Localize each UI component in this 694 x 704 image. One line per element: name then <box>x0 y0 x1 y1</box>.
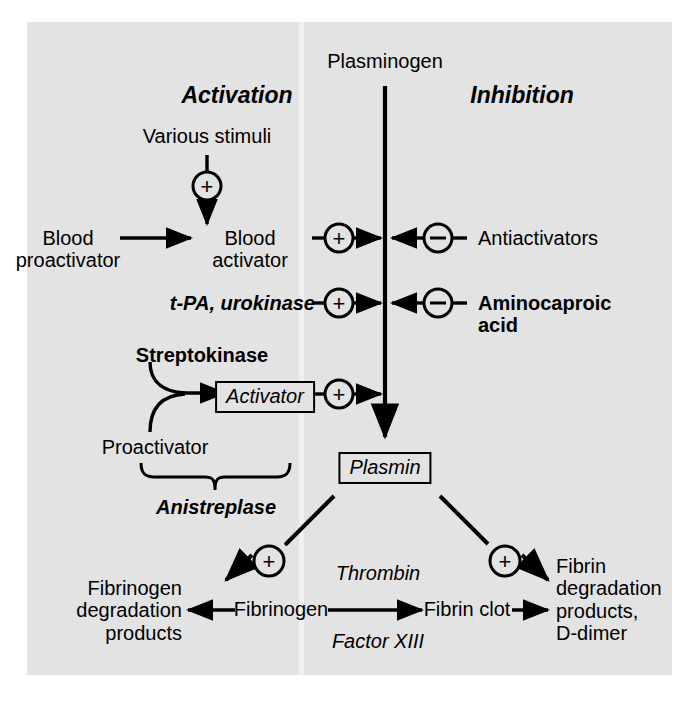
svg-text:+: + <box>263 549 276 574</box>
edge-plasmin-to-fibrinogen <box>226 555 252 580</box>
edge-label-thrombin: Thrombin <box>336 562 420 584</box>
node-blood-proactivator: Blood proactivator <box>16 227 121 272</box>
node-activator-box: Activator <box>215 381 315 413</box>
diagram-root: + + + + + <box>0 0 694 704</box>
node-tpa-urokinase: t-PA, urokinase <box>170 292 315 314</box>
node-streptokinase: Streptokinase <box>136 344 268 366</box>
node-plasminogen: Plasminogen <box>327 50 443 72</box>
node-antiactivators: Antiactivators <box>478 227 598 249</box>
node-plasmin-box: Plasmin <box>338 452 431 484</box>
sign-minus-antiactivators <box>424 224 452 252</box>
sign-plus-blood-activator: + <box>325 224 353 252</box>
sign-plus-tpa: + <box>325 289 353 317</box>
column-header-activation: Activation <box>181 83 292 109</box>
sign-plus-plasmin-right: + <box>490 546 520 576</box>
node-fibrin-clot: Fibrin clot <box>424 598 511 620</box>
node-fibrin-degradation-products: Fibrin degradation products, D-dimer <box>556 555 662 645</box>
svg-text:+: + <box>333 226 346 251</box>
svg-text:+: + <box>499 549 512 574</box>
svg-text:+: + <box>201 174 214 199</box>
sign-plus-stimuli: + <box>193 172 221 200</box>
edge-label-factor-xiii: Factor XIII <box>332 630 424 652</box>
node-fibrinogen: Fibrinogen <box>234 598 329 620</box>
svg-text:+: + <box>333 291 346 316</box>
sign-plus-activator: + <box>325 380 353 408</box>
node-blood-activator: Blood activator <box>212 227 288 272</box>
node-fibrinogen-degradation-products: Fibrinogen degradation products <box>76 577 182 644</box>
svg-text:+: + <box>333 382 346 407</box>
edge-plasmin-right-upper <box>440 496 488 544</box>
node-anistreplase: Anistreplase <box>156 496 276 518</box>
edge-proactivator-curve <box>150 394 185 432</box>
brace-anistreplase <box>141 463 290 490</box>
sign-plus-plasmin-left: + <box>254 546 284 576</box>
edge-streptokinase-curve <box>150 362 185 393</box>
node-proactivator: Proactivator <box>102 436 209 458</box>
edge-plasmin-to-fibrin-clot <box>522 555 548 580</box>
sign-minus-aminocaproic <box>424 289 452 317</box>
node-aminocaproic-acid: Aminocaproic acid <box>478 292 611 337</box>
column-header-inhibition: Inhibition <box>470 83 573 109</box>
edge-plasmin-left-upper <box>286 496 334 544</box>
node-various-stimuli: Various stimuli <box>143 125 272 147</box>
